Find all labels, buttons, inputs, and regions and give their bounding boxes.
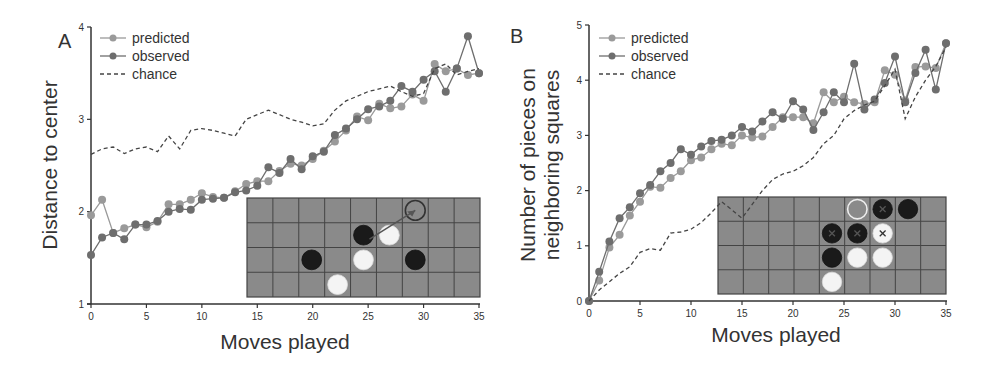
legend-label: predicted: [132, 30, 190, 46]
x-tick-label: 30: [418, 311, 430, 322]
observed-marker: [718, 136, 726, 144]
y-tick-label: 2: [78, 206, 84, 217]
observed-marker: [932, 86, 940, 94]
predicted-marker: [87, 211, 95, 219]
observed-marker: [667, 159, 675, 167]
predicted-marker: [364, 116, 372, 124]
observed-marker: [820, 108, 828, 116]
observed-marker: [87, 251, 95, 259]
observed-marker: [464, 32, 472, 40]
white-piece: [354, 250, 374, 270]
observed-marker: [242, 186, 250, 194]
observed-marker: [253, 182, 261, 190]
y-tick-label: 2: [576, 185, 582, 196]
x-axis-title: Moves played: [711, 323, 841, 346]
observed-marker: [209, 195, 217, 203]
observed-marker: [131, 221, 139, 229]
x-tick-label: 15: [252, 311, 264, 322]
observed-marker: [911, 69, 919, 77]
x-tick-label: 5: [637, 308, 643, 319]
legend-label: chance: [132, 66, 177, 82]
y-tick-label: 5: [576, 20, 582, 31]
panel-letter: A: [58, 30, 72, 52]
observed-marker: [220, 194, 228, 202]
legend: predictedobservedchance: [100, 30, 190, 82]
observed-marker: [187, 206, 195, 214]
observed-marker: [386, 97, 394, 105]
predicted-marker: [769, 123, 777, 131]
legend-label: chance: [631, 66, 676, 82]
legend: predictedobservedchance: [599, 30, 689, 82]
observed-marker: [860, 105, 868, 113]
x-tick-label: 20: [787, 308, 799, 319]
observed-marker: [364, 105, 372, 113]
predicted-marker: [830, 98, 838, 106]
predicted-marker: [98, 196, 106, 204]
predicted-marker: [397, 102, 405, 110]
legend-observed-marker: [609, 53, 616, 60]
observed-marker: [769, 108, 777, 116]
legend-predicted-marker: [609, 35, 616, 42]
black-piece: [302, 250, 322, 270]
y-tick-label: 1: [576, 240, 582, 251]
predicted-marker: [728, 141, 736, 149]
predicted-marker: [420, 97, 428, 105]
y-tick-label: 3: [576, 130, 582, 141]
y-tick-label: 3: [78, 114, 84, 125]
legend-predicted-marker: [110, 35, 117, 42]
predicted-marker: [922, 62, 930, 70]
white-piece: [873, 248, 892, 267]
white-piece: [379, 225, 399, 245]
x-tick-label: 20: [307, 311, 319, 322]
predicted-marker: [636, 198, 644, 206]
x-tick-label: 30: [889, 308, 901, 319]
observed-marker: [198, 196, 206, 204]
observed-marker: [697, 142, 705, 150]
observed-marker: [287, 155, 295, 163]
observed-marker: [595, 268, 603, 276]
white-piece: [848, 248, 867, 267]
observed-marker: [231, 188, 239, 196]
observed-marker: [758, 118, 766, 126]
predicted-marker: [616, 231, 624, 239]
observed-marker: [176, 205, 184, 213]
y-axis-title-line: neighboring squares: [540, 70, 563, 260]
observed-marker: [687, 151, 695, 159]
legend-label: observed: [631, 48, 689, 64]
observed-marker: [353, 115, 361, 123]
x-tick-label: 0: [88, 311, 94, 322]
x-tick-label: 35: [473, 311, 485, 322]
panel-a-distance-chart: A123405101520253035Moves playedDistance …: [38, 22, 485, 354]
observed-marker: [922, 46, 930, 54]
predicted-marker: [850, 98, 858, 106]
predicted-marker: [667, 174, 675, 182]
panel-letter: B: [510, 25, 523, 47]
x-tick-label: 10: [685, 308, 697, 319]
predicted-marker: [738, 131, 746, 139]
predicted-marker: [264, 177, 272, 185]
x-tick-label: 5: [144, 311, 150, 322]
y-tick-label: 4: [78, 22, 84, 33]
observed-marker: [298, 165, 306, 173]
observed-marker: [442, 88, 450, 96]
black-piece: [898, 199, 917, 218]
observed-marker: [942, 39, 950, 47]
predicted-marker: [820, 88, 828, 96]
figure: A123405101520253035Moves playedDistance …: [0, 0, 989, 367]
x-axis-title: Moves played: [220, 330, 350, 353]
observed-marker: [779, 115, 787, 123]
observed-marker: [342, 125, 350, 133]
observed-marker: [707, 137, 715, 145]
observed-marker: [646, 181, 654, 189]
predicted-marker: [677, 167, 685, 175]
observed-marker: [375, 102, 383, 110]
black-piece: [405, 250, 425, 270]
observed-marker: [320, 148, 328, 156]
predicted-marker: [697, 153, 705, 161]
white-piece: [822, 272, 841, 291]
observed-marker: [656, 167, 664, 175]
observed-marker: [728, 131, 736, 139]
observed-marker: [142, 221, 150, 229]
predicted-marker: [120, 224, 128, 232]
predicted-marker: [789, 113, 797, 121]
